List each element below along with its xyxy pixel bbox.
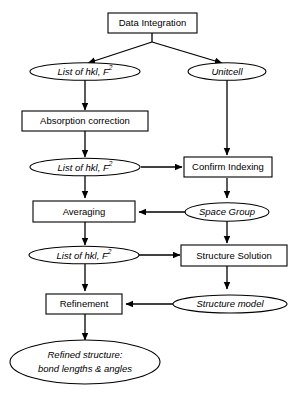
node-unitcell[interactable]: Unitcell: [188, 63, 266, 81]
space-group-label: Space Group: [199, 206, 255, 217]
node-hkl-list-2[interactable]: List of hkl, F2: [30, 158, 140, 176]
node-absorption-correction[interactable]: Absorption correction: [22, 111, 148, 131]
hkl-list-1-superscript: 2: [108, 64, 113, 71]
unitcell-label: Unitcell: [211, 66, 243, 77]
hkl-list-2-superscript: 2: [108, 160, 113, 167]
node-confirm-indexing[interactable]: Confirm Indexing: [184, 157, 272, 177]
hkl-list-3-text: List of hkl, F: [57, 249, 109, 260]
hkl-list-1-text: List of hkl, F: [58, 66, 110, 77]
node-data-integration[interactable]: Data Integration: [108, 13, 197, 33]
node-hkl-list-3[interactable]: List of hkl, F2: [29, 246, 139, 264]
hkl-list-1-label: List of hkl, F2: [58, 64, 113, 76]
structure-solution-label: Structure Solution: [196, 250, 272, 261]
node-hkl-list-1[interactable]: List of hkl, F2: [30, 63, 140, 81]
node-structure-model[interactable]: Structure model: [173, 295, 287, 313]
hkl-list-3-superscript: 2: [107, 248, 112, 255]
averaging-label: Averaging: [63, 206, 106, 217]
refined-structure-label-line2: bond lengths & angles: [38, 363, 132, 374]
hkl-list-3-label: List of hkl, F2: [57, 248, 112, 260]
flowchart-canvas: Data Integration List of hkl, F2 Unitcel…: [0, 0, 295, 395]
refinement-label: Refinement: [60, 298, 109, 309]
data-integration-label: Data Integration: [119, 17, 187, 28]
node-refined-structure[interactable]: Refined structure: bond lengths & angles: [10, 340, 160, 384]
hkl-list-2-text: List of hkl, F: [58, 161, 110, 172]
node-space-group[interactable]: Space Group: [185, 203, 269, 221]
structure-model-label: Structure model: [196, 298, 264, 309]
flowchart-svg: Data Integration List of hkl, F2 Unitcel…: [0, 0, 295, 395]
confirm-indexing-label: Confirm Indexing: [192, 161, 264, 172]
absorption-correction-label: Absorption correction: [40, 115, 130, 126]
hkl-list-2-label: List of hkl, F2: [58, 160, 113, 172]
node-averaging[interactable]: Averaging: [33, 201, 135, 222]
refined-structure-label-line1: Refined structure:: [48, 349, 123, 360]
edge-data-integration-to-unitcell: [152, 42, 222, 63]
node-structure-solution[interactable]: Structure Solution: [181, 245, 287, 266]
edge-data-integration-to-hkl-list-1: [88, 42, 152, 63]
node-refinement[interactable]: Refinement: [46, 294, 122, 314]
